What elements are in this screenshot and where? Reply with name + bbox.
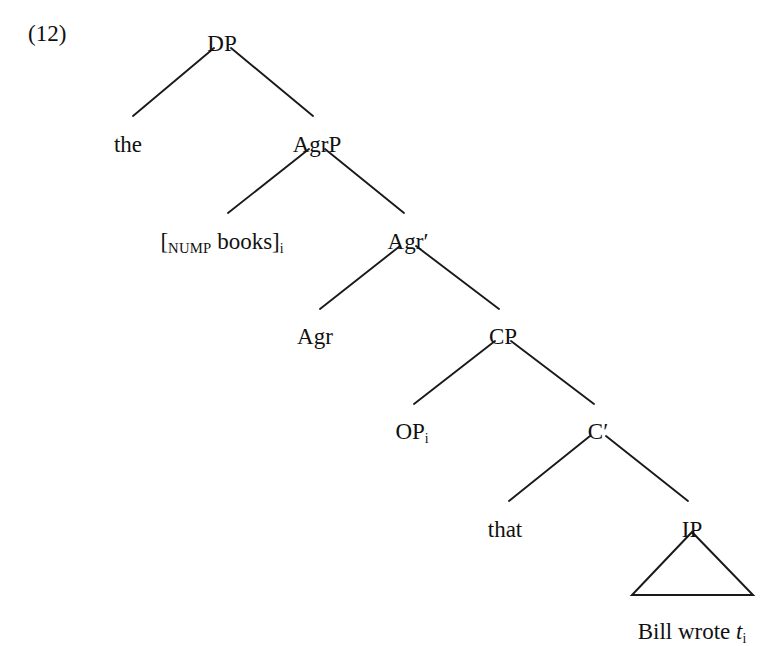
tree-node-the: the <box>114 133 142 156</box>
trace-symbol: t <box>736 619 742 644</box>
tree-node-c-bar: C′ <box>588 420 608 443</box>
branch-dp-to-agrp <box>231 48 313 116</box>
branch-dp-to-the <box>133 48 214 116</box>
agr-bar-label: Agr <box>388 229 424 254</box>
nump-word: books <box>217 229 272 254</box>
tree-node-op: OPi <box>395 420 428 443</box>
tree-node-nump-bracket: [NUMP books]i <box>160 230 283 253</box>
prime-mark: ′ <box>603 419 608 444</box>
branch-agrbar-to-cp <box>416 246 499 309</box>
c-bar-label: C <box>588 419 603 444</box>
tree-branches <box>0 0 779 646</box>
branch-cbar-to-that <box>509 436 590 501</box>
tree-node-dp: DP <box>207 32 236 55</box>
nump-index: i <box>280 241 284 256</box>
branch-agrbar-to-agr <box>320 246 400 309</box>
tree-terminal-string: Bill wrote ti <box>638 620 747 643</box>
branch-agrp-to-nump <box>228 149 309 213</box>
nump-subscript-label: NUMP <box>168 240 211 256</box>
tree-node-agr-bar: Agr′ <box>388 230 429 253</box>
example-number: (12) <box>28 22 66 45</box>
branch-agrp-to-agrbar <box>325 149 404 213</box>
terminal-words: Bill wrote <box>638 619 736 644</box>
bracket-open: [ <box>160 229 168 254</box>
tree-node-ip: IP <box>682 518 702 541</box>
branch-cp-to-op <box>414 341 495 404</box>
op-label: OP <box>395 419 424 444</box>
op-index: i <box>425 431 429 446</box>
prime-mark: ′ <box>423 229 428 254</box>
branch-cp-to-cbar <box>511 341 594 404</box>
tree-node-agrp: AgrP <box>293 133 342 156</box>
tree-node-that: that <box>488 518 523 541</box>
trace-index: i <box>742 631 746 646</box>
branch-cbar-to-ip <box>606 436 688 501</box>
syntax-tree-diagram: (12) DP the AgrP [NUMP books]i Agr′ Agr … <box>0 0 779 646</box>
tree-node-agr: Agr <box>297 325 333 348</box>
tree-node-cp: CP <box>489 325 517 348</box>
